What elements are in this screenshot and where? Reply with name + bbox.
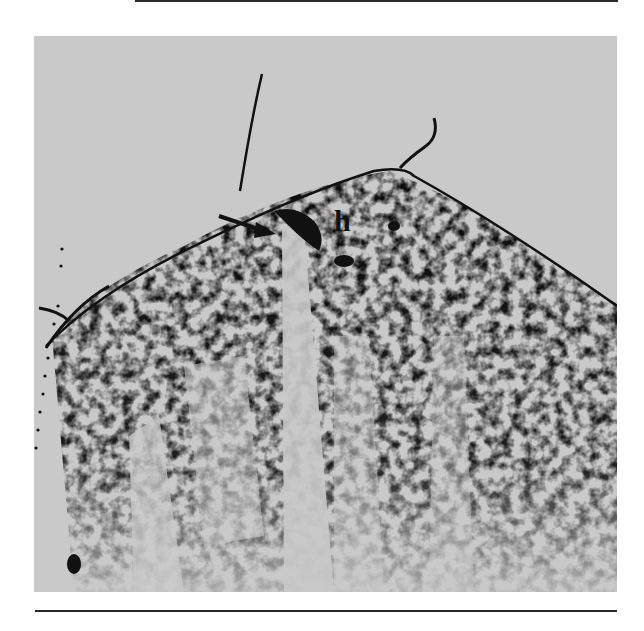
- bottom-rule: [35, 610, 617, 612]
- top-rule: [135, 0, 618, 2]
- needle-line-right: [400, 118, 435, 168]
- annotation-label-h: h: [334, 204, 351, 238]
- echo-spot: [67, 554, 81, 574]
- needle-line-left: [240, 74, 262, 191]
- echo-spot: [334, 255, 354, 267]
- ultrasound-panel: h: [34, 36, 617, 592]
- echo-spot: [388, 221, 400, 231]
- ultrasound-scan: [34, 36, 617, 592]
